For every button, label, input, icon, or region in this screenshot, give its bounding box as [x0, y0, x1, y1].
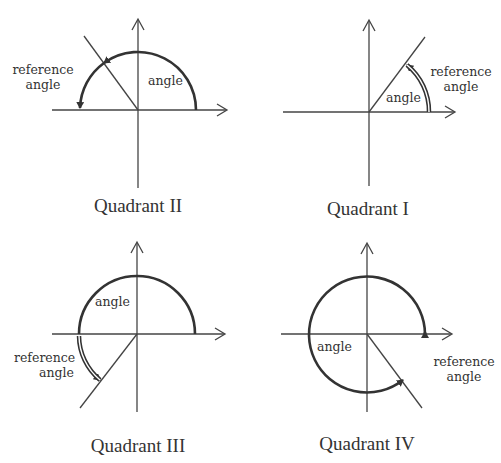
q3-ref-line1: reference [14, 350, 74, 365]
q4-reference-label: reference angle [427, 354, 501, 384]
q2-reference-label: reference angle [6, 62, 80, 92]
q2-title: Quadrant II [38, 195, 238, 217]
q1-title: Quadrant I [268, 198, 468, 220]
q3-ref-line2: angle [14, 365, 74, 380]
q1-ref-line2: angle [424, 79, 498, 94]
q4-axes [281, 243, 452, 412]
q4-ref-line2: angle [427, 369, 501, 384]
q1-ref-line1: reference [424, 64, 498, 79]
q2-axes [52, 19, 227, 188]
q3-axes [52, 242, 225, 412]
q4-title: Quadrant IV [267, 433, 467, 455]
q4-angle-label: angle [317, 339, 352, 354]
q2-reference-arc [80, 63, 104, 108]
q1-reference-label: reference angle [424, 64, 498, 94]
q2-angle-label: angle [148, 73, 183, 88]
q2-ref-line2: angle [6, 77, 80, 92]
reference-angle-diagram: reference angle angle Quadrant II refere… [0, 0, 501, 463]
q1-angle-label: angle [386, 90, 421, 105]
q2-ref-line1: reference [6, 62, 80, 77]
q4-ref-line1: reference [427, 354, 501, 369]
q3-reference-arc [79, 336, 100, 380]
q3-angle-label: angle [95, 294, 130, 309]
q3-title: Quadrant III [38, 435, 238, 457]
q3-reference-label: reference angle [14, 350, 74, 380]
